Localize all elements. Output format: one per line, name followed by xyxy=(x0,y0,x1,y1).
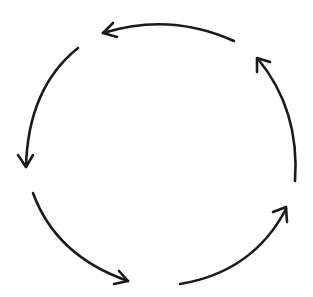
cycle-diagram xyxy=(0,0,313,297)
arrow-bottom-left xyxy=(33,193,128,284)
cycle-arrows xyxy=(0,0,313,297)
arrow-left xyxy=(18,48,78,167)
arrow-top xyxy=(103,23,234,41)
arrow-right xyxy=(257,58,296,181)
arrow-bottom-right xyxy=(180,207,287,284)
